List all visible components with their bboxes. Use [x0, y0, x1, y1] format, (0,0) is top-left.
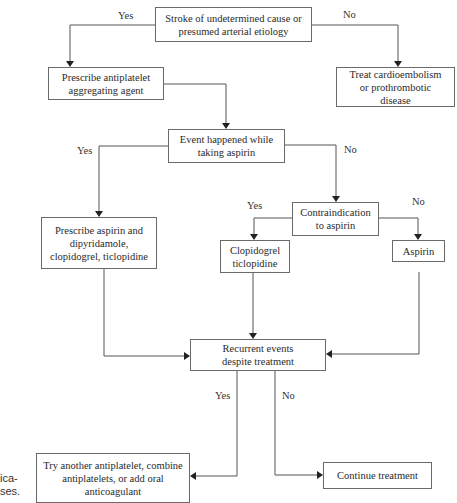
node-aspirin-text: Aspirin	[403, 245, 435, 258]
clipped-caption: ica- ses.	[0, 472, 20, 498]
node-stroke-start-text: Stroke of undetermined cause or presumed…	[159, 12, 308, 38]
node-prescribe-combination-text: Prescribe aspirin and dipyridamole, clop…	[45, 224, 153, 263]
edge-label-contra-no: No	[412, 196, 425, 207]
clipped-caption-line2: ses.	[0, 485, 20, 498]
clipped-caption-line1: ica-	[0, 472, 20, 485]
node-recurrent-events-text: Recurrent events despite treatment	[219, 342, 297, 368]
edge-label-start-no: No	[343, 9, 356, 20]
node-continue-treatment-text: Continue treatment	[337, 469, 418, 482]
node-recurrent-events: Recurrent events despite treatment	[190, 339, 326, 371]
edge-label-event-yes: Yes	[77, 145, 92, 156]
node-continue-treatment: Continue treatment	[323, 462, 432, 489]
edge-label-contra-yes: Yes	[247, 200, 262, 211]
node-treat-cardioembolism: Treat cardioembolism or prothrombotic di…	[336, 67, 455, 107]
node-clopidogrel-text: Clopidogrel ticlopidine	[229, 244, 281, 270]
node-stroke-start: Stroke of undetermined cause or presumed…	[155, 7, 312, 42]
edge-label-start-yes: Yes	[118, 10, 133, 21]
node-event-while-aspirin-text: Event happened while taking aspirin	[177, 133, 276, 159]
node-prescribe-combination: Prescribe aspirin and dipyridamole, clop…	[41, 217, 157, 269]
edge-label-event-no: No	[344, 144, 357, 155]
node-prescribe-antiplatelet: Prescribe antiplatelet aggregating agent	[48, 67, 164, 100]
edge-label-recurrent-no: No	[282, 390, 295, 401]
node-try-another: Try another antiplatelet, combine antipl…	[36, 453, 190, 503]
node-event-while-aspirin: Event happened while taking aspirin	[168, 129, 285, 163]
node-prescribe-antiplatelet-text: Prescribe antiplatelet aggregating agent	[52, 71, 160, 97]
node-try-another-text: Try another antiplatelet, combine antipl…	[43, 459, 183, 498]
node-aspirin: Aspirin	[392, 240, 445, 262]
node-contraindication-aspirin: Contraindication to aspirin	[292, 202, 379, 236]
node-clopidogrel: Clopidogrel ticlopidine	[220, 240, 290, 273]
edge-label-recurrent-yes: Yes	[215, 390, 230, 401]
node-treat-cardioembolism-text: Treat cardioembolism or prothrombotic di…	[347, 68, 444, 107]
node-contraindication-aspirin-text: Contraindication to aspirin	[296, 206, 375, 232]
